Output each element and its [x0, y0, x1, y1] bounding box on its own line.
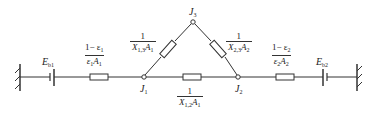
resistor-surface2: [276, 74, 294, 80]
node-j2: [236, 75, 240, 79]
node-label-j3: J3: [189, 6, 196, 18]
fraction-surface1: 1− ε1 ε1A1: [83, 42, 106, 69]
resistor-space13: [160, 40, 177, 57]
source-label-eb2: Eb2: [316, 56, 328, 68]
resistor-space23: [210, 40, 227, 57]
fraction-space12: 1 X1,2A1: [177, 86, 203, 110]
fraction-surface2: 1− ε2 ε2A2: [270, 42, 293, 69]
node-label-j1: J1: [140, 83, 147, 95]
source-label-eb1: Eb1: [42, 56, 54, 68]
resistor-space12: [183, 74, 201, 80]
radiation-network-diagram: Eb1 Eb2 J1 J2 J3 1− ε1 ε1A1 1− ε2 ε2A2 1…: [0, 0, 378, 123]
node-j1: [142, 75, 146, 79]
resistor-surface1: [90, 74, 108, 80]
fraction-space13: 1 X1,3A1: [130, 31, 156, 55]
node-label-j2: J2: [235, 83, 242, 95]
fraction-space23: 1 X2,3A2: [226, 31, 252, 55]
node-j3: [191, 20, 195, 24]
